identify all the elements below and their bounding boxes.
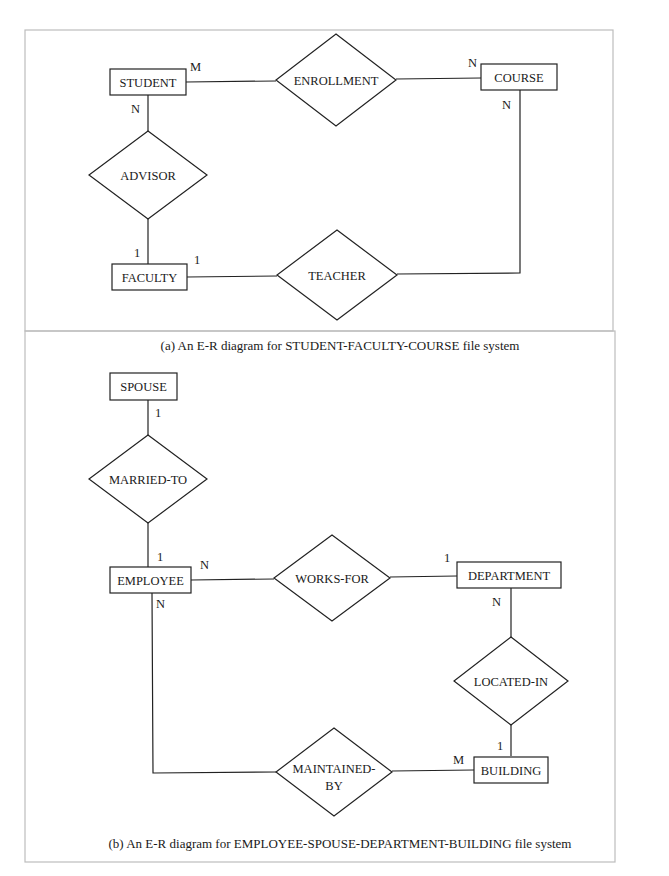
entity-student[interactable]: STUDENT	[110, 69, 186, 95]
entity-faculty[interactable]: FACULTY	[112, 264, 187, 290]
entity-building[interactable]: BUILDING	[474, 757, 548, 783]
cardinality-department-located: N	[492, 595, 501, 609]
edge-teacher-course	[397, 90, 520, 274]
cardinality-building-maintained: M	[453, 753, 464, 767]
edge-employee-works	[191, 579, 274, 580]
relationship-advisor[interactable]: ADVISOR	[89, 131, 207, 219]
edge-maintained-building	[392, 770, 474, 771]
relationship-works-for[interactable]: WORKS-FOR	[274, 535, 390, 621]
entity-course-label: COURSE	[494, 71, 544, 85]
cardinality-faculty-advisor: 1	[134, 246, 140, 260]
relationship-located-in-label: LOCATED-IN	[474, 675, 548, 689]
cardinality-student-advisor: N	[131, 102, 140, 116]
panel-a: STUDENT COURSE FACULTY ENROLLMENT ADVISO…	[89, 34, 557, 353]
entity-faculty-label: FACULTY	[122, 271, 178, 285]
panel-b: SPOUSE EMPLOYEE DEPARTMENT BUILDING MARR…	[89, 373, 571, 851]
edge-student-enrollment	[186, 81, 276, 82]
cardinality-employee-maintained: N	[156, 597, 165, 611]
edge-enrollment-course	[396, 78, 481, 79]
caption-a: (a) An E-R diagram for STUDENT-FACULTY-C…	[161, 338, 520, 353]
entity-course[interactable]: COURSE	[481, 64, 557, 90]
cardinality-faculty-teacher: 1	[194, 253, 200, 267]
edge-employee-maintained	[152, 593, 276, 773]
relationship-married-to-label: MARRIED-TO	[109, 473, 187, 487]
cardinality-course-teacher: N	[502, 98, 511, 112]
entity-department-label: DEPARTMENT	[468, 569, 550, 583]
cardinality-building-located: 1	[497, 739, 503, 753]
entity-spouse[interactable]: SPOUSE	[110, 373, 177, 400]
cardinality-department-works: 1	[444, 551, 450, 565]
relationship-enrollment[interactable]: ENROLLMENT	[276, 34, 396, 126]
edge-works-department	[390, 576, 457, 577]
entity-employee[interactable]: EMPLOYEE	[110, 567, 191, 593]
relationship-maintained-by[interactable]: MAINTAINED- BY	[276, 728, 392, 816]
relationship-married-to[interactable]: MARRIED-TO	[89, 435, 207, 523]
cardinality-course-enrollment: N	[468, 56, 477, 70]
relationship-located-in[interactable]: LOCATED-IN	[454, 637, 568, 725]
caption-b: (b) An E-R diagram for EMPLOYEE-SPOUSE-D…	[109, 836, 572, 851]
entity-employee-label: EMPLOYEE	[117, 574, 184, 588]
cardinality-student-enrollment: M	[190, 60, 201, 74]
entity-building-label: BUILDING	[481, 764, 541, 778]
relationship-maintained-by-label-line1: MAINTAINED-	[292, 762, 375, 776]
cardinality-employee-works: N	[200, 558, 209, 572]
entity-spouse-label: SPOUSE	[120, 380, 167, 394]
relationship-teacher[interactable]: TEACHER	[277, 230, 397, 320]
relationship-works-for-label: WORKS-FOR	[295, 572, 369, 586]
relationship-maintained-by-label-line2: BY	[325, 779, 342, 793]
relationship-advisor-label: ADVISOR	[120, 169, 176, 183]
cardinality-employee-married: 1	[157, 550, 163, 564]
relationship-teacher-label: TEACHER	[308, 269, 366, 283]
edge-faculty-teacher	[187, 276, 277, 277]
cardinality-spouse-married: 1	[155, 406, 161, 420]
er-diagram-figure: STUDENT COURSE FACULTY ENROLLMENT ADVISO…	[0, 0, 669, 876]
entity-student-label: STUDENT	[120, 76, 177, 90]
relationship-enrollment-label: ENROLLMENT	[294, 74, 379, 88]
entity-department[interactable]: DEPARTMENT	[457, 562, 561, 588]
